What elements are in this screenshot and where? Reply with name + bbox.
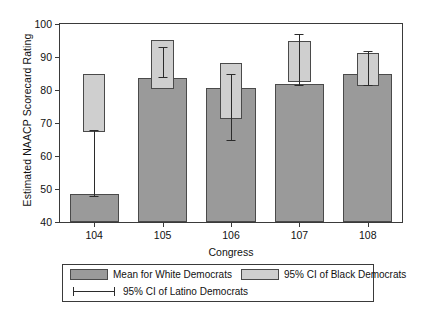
error-bar-cap [158,77,167,78]
bar-white-democrats [70,194,119,222]
error-bar-latino-democrats [299,34,300,85]
x-axis-tick-label: 105 [154,230,172,241]
legend-swatch-white-democrats [70,269,108,280]
x-axis-tick [368,222,369,227]
plot-inner: 405060708090100104105106107108 [60,24,402,222]
error-bar-cap [295,34,304,35]
y-axis-tick [55,222,60,223]
chart-figure: Estimated NAACP Scorecard Rating 4050607… [0,0,434,311]
bar-white-democrats [275,84,324,222]
legend-label-black-democrats: 95% CI of Black Democrats [284,269,406,280]
y-axis-tick-label: 60 [40,151,52,162]
y-axis-tick-label: 70 [40,118,52,129]
legend-errorbar-icon [70,286,118,297]
legend-item-white-democrats: Mean for White Democrats [70,269,232,280]
plot-area: 405060708090100104105106107108 [59,23,403,223]
x-axis-tick-label: 106 [222,230,240,241]
y-axis-tick [55,90,60,91]
bar-white-democrats [138,78,187,222]
x-axis-tick [299,222,300,227]
error-bar-cap [363,51,372,52]
y-axis-tick [55,24,60,25]
x-axis-tick [231,222,232,227]
y-axis-tick [55,156,60,157]
legend-label-white-democrats: Mean for White Democrats [113,269,232,280]
error-bar-cap [90,196,99,197]
x-axis-title: Congress [59,246,403,258]
x-axis-tick-label: 108 [359,230,377,241]
error-bar-latino-democrats [368,51,369,85]
error-bar-cap [295,85,304,86]
x-axis-tick-label: 104 [85,230,103,241]
legend-swatch-black-democrats [241,269,279,280]
error-bar-cap [158,47,167,48]
ci-box-black-democrats [83,74,106,132]
error-bar-cap [227,74,236,75]
y-axis-tick-label: 40 [40,217,52,228]
legend-item-black-democrats: 95% CI of Black Democrats [241,269,406,280]
y-axis-tick-label: 50 [40,184,52,195]
y-axis-tick [55,189,60,190]
y-axis-tick [55,57,60,58]
bar-white-democrats [343,74,392,223]
legend: Mean for White Democrats 95% CI of Black… [62,264,374,302]
y-axis-tick [55,123,60,124]
legend-item-latino-democrats: 95% CI of Latino Democrats [70,286,248,297]
error-bar-latino-democrats [94,130,95,196]
error-bar-cap [363,85,372,86]
y-axis-title: Estimated NAACP Scorecard Rating [21,15,33,225]
error-bar-cap [227,140,236,141]
x-axis-tick [94,222,95,227]
y-axis-tick-label: 100 [34,19,52,30]
error-bar-latino-democrats [231,74,232,140]
error-bar-latino-democrats [163,47,164,77]
x-axis-tick [163,222,164,227]
x-axis-tick-label: 107 [291,230,309,241]
legend-label-latino-democrats: 95% CI of Latino Democrats [123,286,248,297]
y-axis-tick-label: 80 [40,85,52,96]
y-axis-tick-label: 90 [40,52,52,63]
error-bar-cap [90,130,99,131]
